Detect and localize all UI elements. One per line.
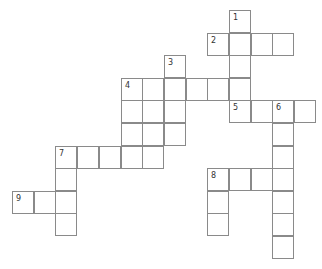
clue-number: 6 bbox=[276, 104, 281, 112]
crossword-cell[interactable] bbox=[121, 100, 143, 123]
crossword-cell[interactable] bbox=[229, 33, 251, 56]
crossword-cell[interactable] bbox=[229, 55, 251, 78]
crossword-cell[interactable] bbox=[229, 78, 251, 101]
crossword-cell[interactable] bbox=[142, 100, 164, 123]
crossword-cell[interactable] bbox=[99, 146, 121, 169]
crossword-cell[interactable] bbox=[207, 191, 229, 214]
crossword-cell[interactable] bbox=[55, 168, 77, 191]
crossword-cell[interactable] bbox=[229, 168, 251, 191]
crossword-cell[interactable] bbox=[164, 78, 186, 101]
crossword-cell[interactable] bbox=[251, 168, 273, 191]
crossword-cell[interactable]: 6 bbox=[272, 100, 294, 123]
crossword-cell[interactable] bbox=[77, 146, 99, 169]
crossword-cell[interactable] bbox=[142, 78, 164, 101]
clue-number: 9 bbox=[16, 195, 21, 203]
clue-number: 1 bbox=[233, 14, 238, 22]
crossword-cell[interactable] bbox=[272, 146, 294, 169]
crossword-cell[interactable]: 4 bbox=[121, 78, 143, 101]
clue-number: 5 bbox=[233, 104, 238, 112]
clue-number: 2 bbox=[211, 37, 216, 45]
clue-number: 8 bbox=[211, 172, 216, 180]
crossword-cell[interactable] bbox=[55, 213, 77, 236]
crossword-cell[interactable] bbox=[142, 146, 164, 169]
crossword-cell[interactable] bbox=[121, 146, 143, 169]
crossword-cell[interactable] bbox=[186, 78, 208, 101]
crossword-cell[interactable]: 2 bbox=[207, 33, 229, 56]
crossword-cell[interactable] bbox=[251, 100, 273, 123]
clue-number: 4 bbox=[125, 82, 130, 90]
crossword-cell[interactable] bbox=[251, 33, 273, 56]
crossword-cell[interactable] bbox=[164, 123, 186, 146]
crossword-cell[interactable] bbox=[272, 168, 294, 191]
crossword-cell[interactable] bbox=[142, 123, 164, 146]
crossword-cell[interactable]: 5 bbox=[229, 100, 251, 123]
crossword-cell[interactable]: 9 bbox=[12, 191, 34, 214]
crossword-cell[interactable] bbox=[272, 33, 294, 56]
crossword-cell[interactable] bbox=[294, 100, 316, 123]
crossword-cell[interactable] bbox=[55, 191, 77, 214]
crossword-cell[interactable] bbox=[207, 78, 229, 101]
crossword-cell[interactable] bbox=[272, 191, 294, 214]
crossword-cell[interactable]: 1 bbox=[229, 10, 251, 33]
crossword-cell[interactable] bbox=[34, 191, 56, 214]
crossword-cell[interactable] bbox=[164, 100, 186, 123]
crossword-cell[interactable]: 3 bbox=[164, 55, 186, 78]
crossword-cell[interactable] bbox=[272, 236, 294, 259]
clue-number: 7 bbox=[59, 150, 64, 158]
crossword-cell[interactable]: 7 bbox=[55, 146, 77, 169]
crossword-cell[interactable] bbox=[121, 123, 143, 146]
crossword-cell[interactable] bbox=[207, 213, 229, 236]
crossword-grid: 123456789 bbox=[0, 0, 322, 269]
crossword-cell[interactable] bbox=[272, 213, 294, 236]
clue-number: 3 bbox=[168, 59, 173, 67]
crossword-cell[interactable] bbox=[272, 123, 294, 146]
crossword-cell[interactable]: 8 bbox=[207, 168, 229, 191]
